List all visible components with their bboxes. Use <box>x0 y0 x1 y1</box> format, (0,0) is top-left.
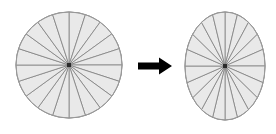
center-hub <box>67 63 71 67</box>
transformation-figure <box>0 0 276 134</box>
center-hub <box>223 64 227 68</box>
target-ellipse <box>185 12 265 120</box>
source-circle <box>16 12 122 118</box>
